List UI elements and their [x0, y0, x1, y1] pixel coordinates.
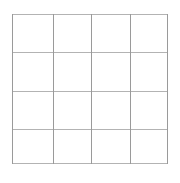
- grid-cell-r1c4[interactable]: [130, 14, 167, 52]
- grid-cell-r4c3[interactable]: [91, 129, 130, 163]
- grid-cell-r2c4[interactable]: [130, 52, 167, 91]
- grid-line-horizontal-h1: [12, 52, 168, 53]
- grid-line-horizontal-h4: [12, 163, 168, 164]
- grid-line-horizontal-h3: [12, 129, 168, 130]
- grid-cell-r1c2[interactable]: [53, 14, 91, 52]
- grid-line-horizontal-h0: [12, 14, 168, 15]
- grid-line-vertical-v4: [167, 14, 168, 164]
- grid-cell-r3c3[interactable]: [91, 91, 130, 129]
- grid-cell-r3c1[interactable]: [12, 91, 53, 129]
- grid-line-horizontal-h2: [12, 91, 168, 92]
- page-canvas: [0, 0, 180, 183]
- grid-line-vertical-v0: [12, 14, 13, 164]
- grid-line-vertical-v3: [130, 14, 131, 164]
- grid-cell-r4c2[interactable]: [53, 129, 91, 163]
- grid-cell-r3c4[interactable]: [130, 91, 167, 129]
- grid-line-vertical-v2: [91, 14, 92, 164]
- grid-cell-r4c1[interactable]: [12, 129, 53, 163]
- grid-cell-r1c3[interactable]: [91, 14, 130, 52]
- grid-cell-r1c1[interactable]: [12, 14, 53, 52]
- grid-cell-r4c4[interactable]: [130, 129, 167, 163]
- grid-cell-r2c2[interactable]: [53, 52, 91, 91]
- grid-cell-r2c3[interactable]: [91, 52, 130, 91]
- grid-cell-r2c1[interactable]: [12, 52, 53, 91]
- grid-line-vertical-v1: [53, 14, 54, 164]
- grid-cell-r3c2[interactable]: [53, 91, 91, 129]
- grid-figure: [12, 14, 168, 164]
